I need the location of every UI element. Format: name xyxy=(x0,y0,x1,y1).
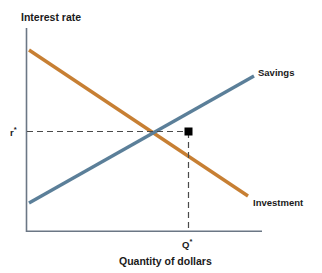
savings-curve xyxy=(29,76,254,203)
y-axis-label: Interest rate xyxy=(21,12,81,23)
savings-curve-label: Savings xyxy=(258,68,294,78)
investment-curve xyxy=(29,50,248,196)
loanable-funds-chart: Interest rate Quantity of dollars Saving… xyxy=(0,0,322,273)
equilibrium-point-marker xyxy=(185,128,193,136)
chart-canvas xyxy=(0,0,322,273)
y-tick-star: * xyxy=(14,125,17,134)
y-axis-equilibrium-tick: r* xyxy=(10,126,17,138)
x-tick-star: * xyxy=(189,237,192,246)
investment-curve-label: Investment xyxy=(253,198,303,208)
x-axis-equilibrium-tick: Q* xyxy=(182,238,192,250)
x-axis-label: Quantity of dollars xyxy=(119,256,212,267)
